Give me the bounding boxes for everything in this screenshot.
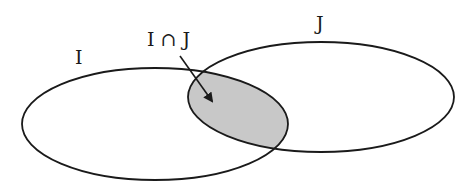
intersection-label: I ∩ J [147, 28, 190, 50]
venn-svg: I J I ∩ J [0, 0, 468, 183]
set-j-label: J [314, 12, 324, 34]
venn-diagram: I J I ∩ J [0, 0, 468, 183]
set-i-label: I [75, 46, 83, 68]
